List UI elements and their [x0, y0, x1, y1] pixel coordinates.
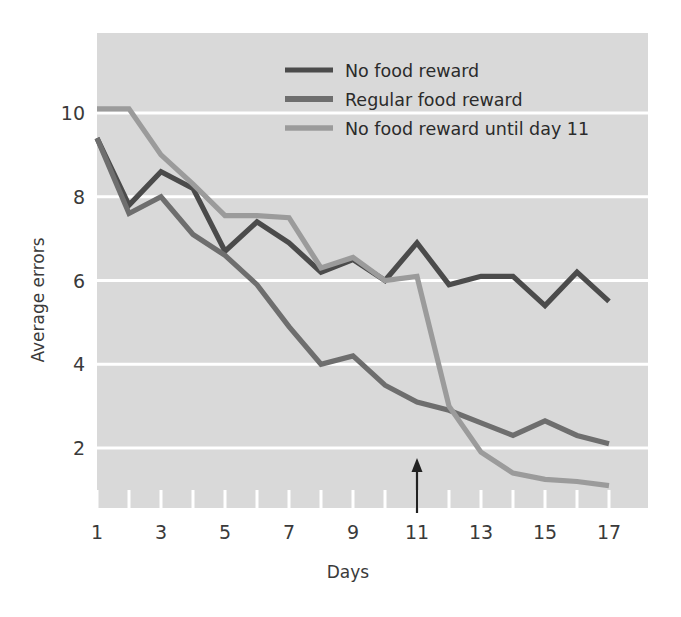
- x-tick-label-5: 5: [219, 521, 231, 543]
- y-tick-label-4: 4: [73, 353, 85, 375]
- x-axis-tick-labels: 1357911131517: [91, 521, 621, 543]
- y-tick-label-8: 8: [73, 186, 85, 208]
- y-axis-tick-labels: 246810: [61, 102, 85, 459]
- x-tick-label-9: 9: [347, 521, 359, 543]
- x-tick-label-15: 15: [533, 521, 557, 543]
- line-chart: 246810 1357911131517 Days Average errors…: [0, 0, 681, 617]
- legend-label-1: Regular food reward: [345, 90, 523, 110]
- y-tick-label-6: 6: [73, 270, 85, 292]
- y-tick-label-10: 10: [61, 102, 85, 124]
- chart-figure: 246810 1357911131517 Days Average errors…: [0, 0, 681, 617]
- x-axis-title: Days: [327, 562, 370, 582]
- x-tick-label-17: 17: [597, 521, 621, 543]
- legend-label-0: No food reward: [345, 61, 479, 81]
- x-tick-label-1: 1: [91, 521, 103, 543]
- x-tick-label-3: 3: [155, 521, 167, 543]
- x-tick-label-11: 11: [405, 521, 429, 543]
- legend-label-2: No food reward until day 11: [345, 119, 589, 139]
- y-axis-title: Average errors: [28, 237, 48, 362]
- x-tick-label-13: 13: [469, 521, 493, 543]
- x-tick-label-7: 7: [283, 521, 295, 543]
- y-tick-label-2: 2: [73, 437, 85, 459]
